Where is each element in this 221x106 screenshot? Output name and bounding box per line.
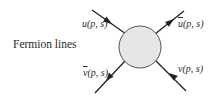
label-v: v(p, s) <box>178 63 203 74</box>
args: (p, s) <box>87 67 108 78</box>
diagram-graphics <box>0 0 221 106</box>
label-ubar: u(p, s) <box>178 18 204 29</box>
arrow-icon <box>169 73 178 81</box>
args: (p, s) <box>87 18 108 29</box>
vertex-blob <box>119 26 161 68</box>
args: (p, s) <box>182 63 203 74</box>
label-u: u(p, s) <box>82 18 108 29</box>
feynman-diagram: Fermion lines u(p, s) u(p, s) v(p, s) v(… <box>0 0 221 106</box>
diagram-title: Fermion lines <box>13 38 77 50</box>
args: (p, s) <box>183 18 204 29</box>
label-vbar: v(p, s) <box>83 67 108 78</box>
